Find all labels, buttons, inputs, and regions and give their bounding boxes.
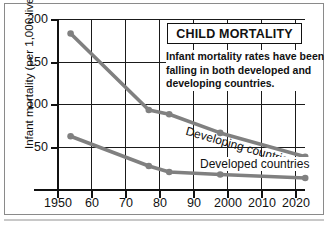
series-label-developed-countries: Developed countries	[199, 157, 310, 171]
chart-title-box: CHILD MORTALITY	[167, 23, 302, 44]
caption-line: falling in both developed and	[166, 64, 310, 78]
series-data-point	[166, 169, 173, 176]
series-data-point	[67, 30, 74, 37]
chart-title: CHILD MORTALITY	[176, 27, 293, 41]
series-data-point	[67, 133, 74, 140]
series-data-point	[166, 111, 173, 118]
caption-line: developing countries.	[166, 77, 310, 91]
chart-figure: 200 150 100 50 1950 60 70 80 90 2000 201…	[0, 0, 329, 227]
series-data-point	[302, 175, 309, 182]
caption-line: Infant mortality rates have been	[166, 50, 310, 64]
chart-caption: Infant mortality rates have been falling…	[166, 50, 310, 91]
series-data-point	[217, 171, 224, 178]
series-data-point	[146, 163, 153, 170]
series-data-point	[146, 107, 153, 114]
